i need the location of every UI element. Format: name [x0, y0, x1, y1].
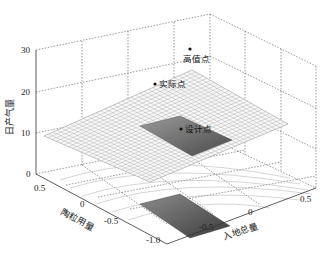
svg-text:10: 10 — [21, 128, 31, 138]
svg-text:0.5: 0.5 — [300, 194, 312, 204]
point-high-label: 高值点 — [183, 54, 210, 64]
response-surface-chart: 高值点 实际点 设计点 30 20 10 0 日产气量 0.5 0 -0.5 -… — [0, 0, 326, 256]
point-actual: 实际点 — [153, 79, 186, 89]
point-high: 高值点 — [183, 47, 210, 64]
point-actual-label: 实际点 — [159, 79, 186, 89]
svg-text:-0.5: -0.5 — [104, 216, 119, 226]
svg-text:0: 0 — [26, 169, 31, 179]
svg-text:30: 30 — [21, 45, 31, 55]
svg-text:0: 0 — [80, 199, 85, 209]
y-axis-ticks: 0.5 0 -0.5 -1.0 — [34, 183, 161, 245]
y-axis-label: 陶粒用量 — [59, 206, 96, 233]
z-axis-label: 日产气量 — [4, 99, 15, 135]
svg-text:0: 0 — [248, 207, 253, 217]
point-design-label: 设计点 — [185, 124, 212, 134]
z-axis-ticks: 30 20 10 0 — [21, 45, 31, 179]
x-axis-label: 入地总量 — [221, 220, 259, 242]
svg-text:0.5: 0.5 — [34, 183, 46, 193]
svg-text:-1.0: -1.0 — [146, 235, 161, 245]
svg-text:-0.5: -0.5 — [199, 222, 214, 232]
point-design: 设计点 — [179, 124, 212, 134]
design-region-projection — [140, 194, 230, 238]
svg-text:20: 20 — [21, 87, 31, 97]
